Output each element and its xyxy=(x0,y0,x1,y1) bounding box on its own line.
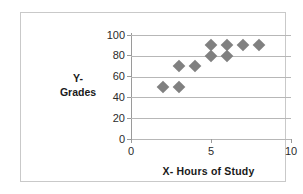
data-point xyxy=(237,39,250,52)
gridline-20 xyxy=(131,118,291,119)
x-axis-tick-5 xyxy=(211,139,212,143)
data-point xyxy=(157,81,170,94)
x-axis-tick-0 xyxy=(131,139,132,143)
y-tick-label-80: 80 xyxy=(95,50,125,61)
y-tick-label-0: 0 xyxy=(95,134,125,145)
chart-figure-frame: Y- Grades 100 80 60 40 20 0 xyxy=(20,12,286,182)
gridline-100 xyxy=(131,35,291,36)
gridline-60 xyxy=(131,77,291,78)
data-point xyxy=(205,39,218,52)
x-axis-title: X- Hours of Study xyxy=(116,165,301,177)
y-tick-label-100: 100 xyxy=(95,30,125,41)
x-tick-label-10: 10 xyxy=(279,146,303,157)
y-tick-label-60: 60 xyxy=(95,71,125,82)
data-point xyxy=(253,39,266,52)
y-tick-label-20: 20 xyxy=(95,113,125,124)
x-tick-label-5: 5 xyxy=(199,146,223,157)
data-point xyxy=(173,81,186,94)
data-point xyxy=(189,60,202,73)
x-axis-tick-10 xyxy=(291,139,292,143)
y-tick-label-40: 40 xyxy=(95,92,125,103)
plot-area xyxy=(131,35,291,139)
gridline-40 xyxy=(131,97,291,98)
data-point xyxy=(173,60,186,73)
data-point xyxy=(221,39,234,52)
chart-screenshot: Y- Grades 100 80 60 40 20 0 xyxy=(0,0,303,194)
x-tick-label-0: 0 xyxy=(119,146,143,157)
